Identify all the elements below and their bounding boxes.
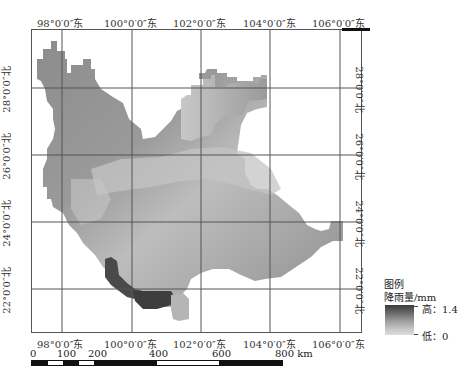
legend-high-label: 高：1.4 bbox=[422, 301, 458, 316]
lon-label-top-104: 104°0′0″东 bbox=[243, 15, 296, 30]
scale-bar bbox=[31, 360, 285, 367]
map-frame bbox=[31, 29, 362, 333]
lat-label-right-22: 22°0′0″北 bbox=[353, 267, 368, 313]
scale-label-600: 600 bbox=[212, 348, 231, 359]
lat-label-right-28: 28°0′0″北 bbox=[353, 66, 368, 112]
lon-label-top-100: 100°0′0″东 bbox=[104, 15, 157, 30]
legend-tick-low bbox=[414, 334, 418, 335]
lon-label-top-98: 98°0′0″东 bbox=[37, 15, 83, 30]
legend-color-ramp bbox=[385, 305, 414, 335]
lat-label-left-26: 26°0′0″北 bbox=[0, 133, 13, 179]
lat-label-left-28: 28°0′0″北 bbox=[0, 66, 13, 112]
frame-corner-mark bbox=[342, 28, 370, 31]
scale-label-200: 200 bbox=[88, 348, 107, 359]
lat-label-left-24: 24°0′0″北 bbox=[0, 200, 13, 246]
scale-label-100: 100 bbox=[57, 348, 76, 359]
lat-label-right-24: 24°0′0″北 bbox=[353, 200, 368, 246]
lat-label-right-26: 26°0′0″北 bbox=[353, 133, 368, 179]
lat-label-left-22: 22°0′0″北 bbox=[0, 267, 13, 313]
scale-label-0: 0 bbox=[30, 348, 36, 359]
legend-tick-high bbox=[414, 306, 418, 307]
lon-label-bottom-106: 106°0′0″东 bbox=[312, 336, 365, 351]
legend-low-label: 低：0 bbox=[422, 328, 448, 343]
scale-label-800: 800 km bbox=[275, 348, 313, 359]
lon-label-top-102: 102°0′0″东 bbox=[173, 15, 226, 30]
scale-label-400: 400 bbox=[149, 348, 168, 359]
